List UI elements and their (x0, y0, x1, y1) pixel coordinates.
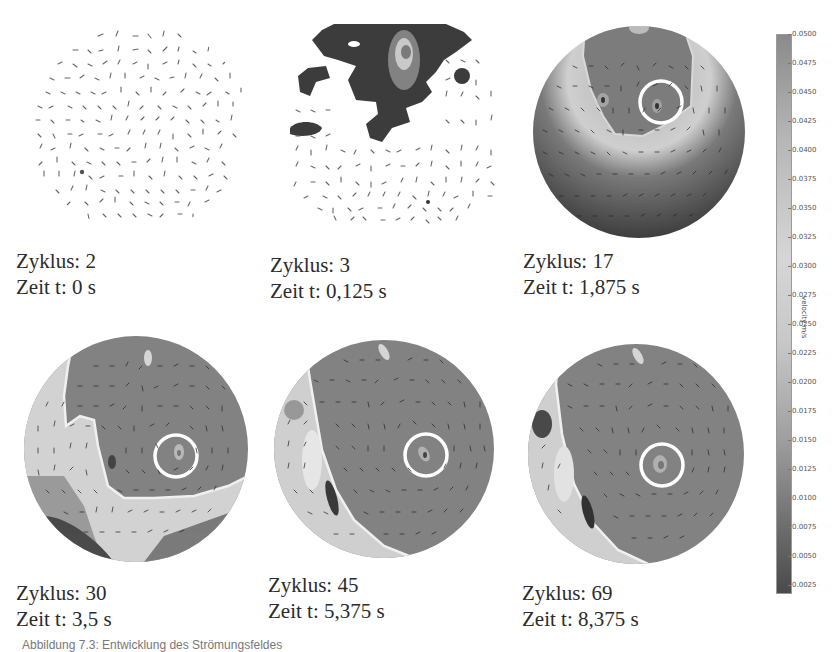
colorbar-tick: 0.0425 (792, 117, 817, 125)
colorbar-tick: 0.0375 (792, 175, 817, 183)
colorbar-tick: 0.0175 (792, 407, 817, 415)
velocity-field-plot-3 (533, 26, 745, 238)
colorbar-tick: 0.0225 (792, 349, 817, 357)
colorbar-tick: 0.0500 (792, 30, 817, 38)
vector-field-icon (274, 340, 494, 558)
colorbar-tick: 0.0350 (792, 204, 817, 212)
time-label: Zeit t: 8,375 s (522, 606, 639, 632)
vector-field-icon (28, 24, 250, 230)
velocity-field-plot-1 (28, 24, 250, 230)
time-label: Zeit t: 3,5 s (16, 606, 112, 632)
panel-caption-6: Zyklus: 69 Zeit t: 8,375 s (522, 580, 639, 632)
colorbar-label: velocity m/s (800, 296, 808, 338)
colorbar-tick: 0.0050 (792, 552, 817, 560)
time-label: Zeit t: 1,875 s (523, 274, 640, 300)
cycle-label: Zyklus: 17 (523, 248, 640, 274)
colorbar-tick: 0.0325 (792, 233, 817, 241)
colorbar-tick: 0.0150 (792, 436, 817, 444)
panel-caption-2: Zyklus: 3 Zeit t: 0,125 s (270, 252, 387, 304)
colorbar-tick: 0.0075 (792, 523, 817, 531)
time-label: Zeit t: 0 s (16, 274, 96, 300)
vector-field-icon (533, 26, 745, 238)
colorbar-tick: 0.0100 (792, 494, 817, 502)
velocity-field-plot-2 (286, 10, 504, 224)
panel-caption-4: Zyklus: 30 Zeit t: 3,5 s (16, 580, 112, 632)
colorbar-tick: 0.0025 (792, 581, 817, 589)
velocity-field-plot-6 (528, 344, 744, 564)
panel-caption-5: Zyklus: 45 Zeit t: 5,375 s (268, 572, 385, 624)
colorbar-tick: 0.0300 (792, 262, 817, 270)
panel-caption-3: Zyklus: 17 Zeit t: 1,875 s (523, 248, 640, 300)
cycle-label: Zyklus: 30 (16, 580, 112, 606)
figure-caption: Abbildung 7.3: Entwicklung des Strömungs… (22, 638, 282, 652)
cycle-label: Zyklus: 3 (270, 252, 387, 278)
velocity-field-plot-5 (274, 340, 494, 558)
vector-field-icon (528, 344, 744, 564)
vector-field-icon (286, 10, 504, 224)
time-label: Zeit t: 0,125 s (270, 278, 387, 304)
colorbar-tick: 0.0400 (792, 146, 817, 154)
velocity-colorbar (776, 34, 792, 594)
cycle-label: Zyklus: 2 (16, 248, 96, 274)
panel-caption-1: Zyklus: 2 Zeit t: 0 s (16, 248, 96, 300)
velocity-field-plot-4 (24, 336, 248, 562)
vector-field-icon (24, 336, 248, 562)
time-label: Zeit t: 5,375 s (268, 598, 385, 624)
colorbar-tick: 0.0125 (792, 465, 817, 473)
colorbar-tick: 0.0450 (792, 88, 817, 96)
colorbar-tick: 0.0475 (792, 59, 817, 67)
cycle-label: Zyklus: 45 (268, 572, 385, 598)
colorbar-tick: 0.0200 (792, 378, 817, 386)
cycle-label: Zyklus: 69 (522, 580, 639, 606)
